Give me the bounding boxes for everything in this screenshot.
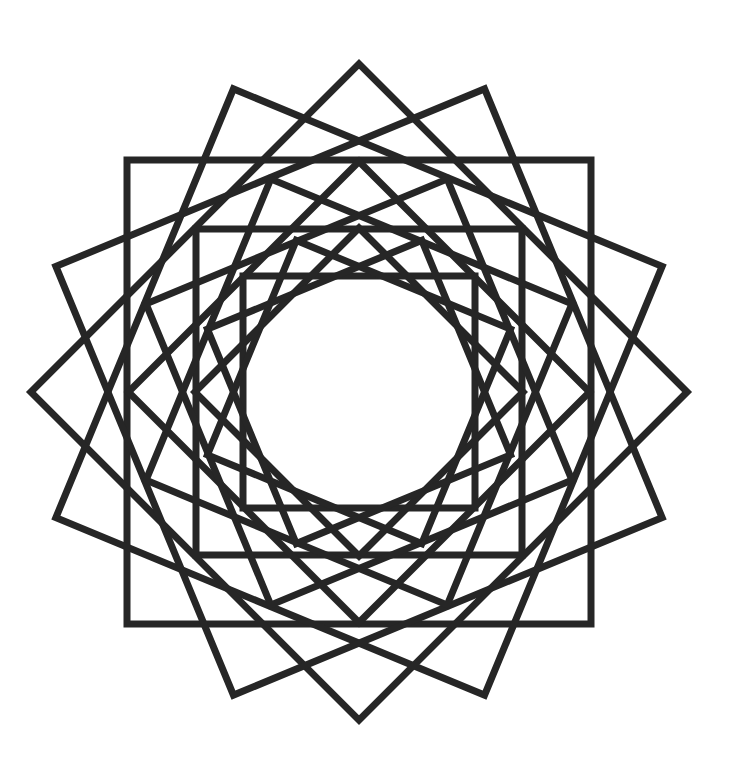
outer-square-22_5deg: [56, 89, 662, 695]
inner-square-67_5deg: [207, 240, 510, 543]
inner-square-22_5deg: [207, 240, 510, 543]
middle-square-67_5deg: [146, 179, 572, 605]
rosette-diagram: [0, 0, 744, 773]
squares-group: [31, 64, 687, 720]
outer-square-67_5deg: [56, 89, 662, 695]
middle-square-22_5deg: [146, 179, 572, 605]
